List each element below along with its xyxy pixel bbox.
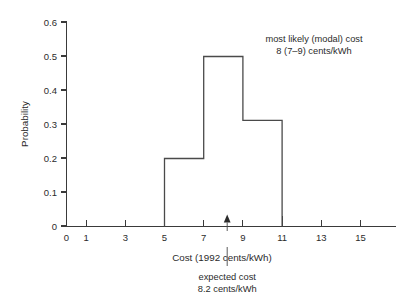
x-tick-label-0: 0 <box>64 232 69 243</box>
x-tick-label-5: 5 <box>162 232 167 243</box>
x-tick-label-7: 7 <box>201 232 206 243</box>
x-tick-label-11: 11 <box>277 232 287 243</box>
chart-canvas: 0.6 0.5 0.4 0.3 0.2 0.1 0 Probability 0 <box>0 0 417 304</box>
x-tick-label-13: 13 <box>316 232 327 243</box>
x-tick-label-1: 1 <box>83 232 88 243</box>
x-axis-title: Cost (1992 cents/kWh) <box>172 252 272 263</box>
y-axis-title: Probability <box>19 101 30 147</box>
x-tick-label-3: 3 <box>123 232 128 243</box>
expected-cost-line2: 8.2 cents/kWh <box>198 284 257 294</box>
x-tick-label-9: 9 <box>240 232 245 243</box>
expected-cost-line1: expected cost <box>199 272 257 282</box>
y-tick-label-0.6: 0.6 <box>44 17 57 28</box>
x-tick-label-15: 15 <box>355 232 366 243</box>
modal-cost-line2: 8 (7–9) cents/kWh <box>276 46 351 56</box>
y-tick-label-0.5: 0.5 <box>44 51 57 62</box>
y-tick-label-0.2: 0.2 <box>44 153 57 164</box>
y-tick-label-0.3: 0.3 <box>44 119 57 130</box>
probability-histogram-figure: 0.6 0.5 0.4 0.3 0.2 0.1 0 Probability 0 <box>0 0 417 304</box>
modal-cost-line1: most likely (modal) cost <box>265 34 363 44</box>
y-tick-label-0.4: 0.4 <box>44 85 57 96</box>
y-tick-label-0: 0 <box>52 221 57 232</box>
y-tick-label-0.1: 0.1 <box>44 187 57 198</box>
